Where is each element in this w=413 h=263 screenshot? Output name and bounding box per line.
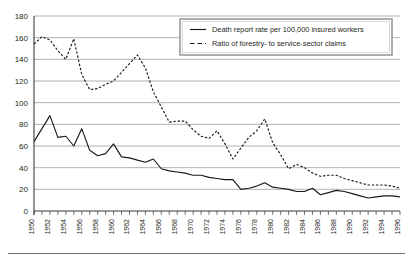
footer-divider (8, 253, 405, 254)
line-chart: 0204060801001201401601801950195219541956… (0, 0, 413, 263)
chart-figure: 0204060801001201401601801950195219541956… (0, 0, 413, 263)
y-axis-tick-label: 0 (24, 207, 29, 216)
x-axis-tick-label: 1966 (155, 219, 162, 235)
x-axis-tick-label: 1970 (187, 219, 194, 235)
x-axis-tick-label: 1984 (299, 219, 306, 235)
x-axis-tick-label: 1982 (283, 219, 290, 235)
y-axis-tick-label: 180 (15, 12, 29, 21)
x-axis-tick-label: 1996 (394, 219, 401, 235)
y-axis-tick-label: 20 (19, 185, 28, 194)
x-axis-tick-label: 1962 (123, 219, 130, 235)
x-axis-tick-label: 1952 (44, 219, 51, 235)
x-axis-tick-label: 1958 (92, 219, 99, 235)
y-axis-tick-label: 80 (19, 120, 28, 129)
x-axis-tick-label: 1956 (76, 219, 83, 235)
x-axis-tick-label: 1980 (267, 219, 274, 235)
y-axis-tick-label: 40 (19, 164, 28, 173)
y-axis-tick-label: 60 (19, 142, 28, 151)
y-axis-tick-label: 140 (15, 55, 29, 64)
y-axis-tick-label: 120 (15, 77, 29, 86)
x-axis-tick-label: 1968 (171, 219, 178, 235)
x-axis-tick-label: 1988 (330, 219, 337, 235)
legend-label-1: Death report rate per 100,000 insured wo… (212, 25, 364, 34)
x-axis-tick-label: 1974 (219, 219, 226, 235)
x-axis-tick-label: 1950 (28, 219, 35, 235)
x-axis-tick-label: 1954 (60, 219, 67, 235)
x-axis-tick-label: 1972 (203, 219, 210, 235)
y-axis-tick-label: 160 (15, 34, 29, 43)
x-axis-tick-label: 1978 (251, 219, 258, 235)
x-axis-tick-label: 1976 (235, 219, 242, 235)
legend-label-2: Ratio of forestry- to service-sector cla… (212, 39, 346, 48)
x-axis-tick-label: 1992 (362, 219, 369, 235)
x-axis-tick-label: 1990 (346, 219, 353, 235)
x-axis-tick-label: 1964 (139, 219, 146, 235)
series-line-1 (34, 116, 400, 198)
y-axis-tick-label: 100 (15, 99, 29, 108)
x-axis-tick-label: 1986 (314, 219, 321, 235)
x-axis-tick-label: 1960 (108, 219, 115, 235)
x-axis-tick-label: 1994 (378, 219, 385, 235)
